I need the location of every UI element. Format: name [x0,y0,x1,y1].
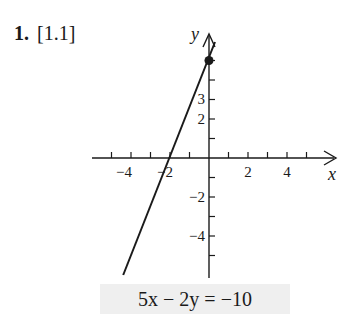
y-axis-label: y [189,24,199,44]
y-tick-label: −2 [189,189,205,205]
x-axis-label: x [327,164,336,184]
coordinate-plane: −4 −2 2 4 3 2 −2 −4 x y [0,0,353,316]
y-tick-label: 3 [198,91,206,107]
x-tick-label: 2 [244,164,252,180]
x-tick-label: 4 [283,164,291,180]
y-tick-label: −4 [189,228,205,244]
equation-label: 5x − 2y = −10 [100,284,290,314]
x-tick-label: −4 [116,164,132,180]
y-tick-label: 2 [198,111,206,127]
y-intercept-point [205,56,214,65]
